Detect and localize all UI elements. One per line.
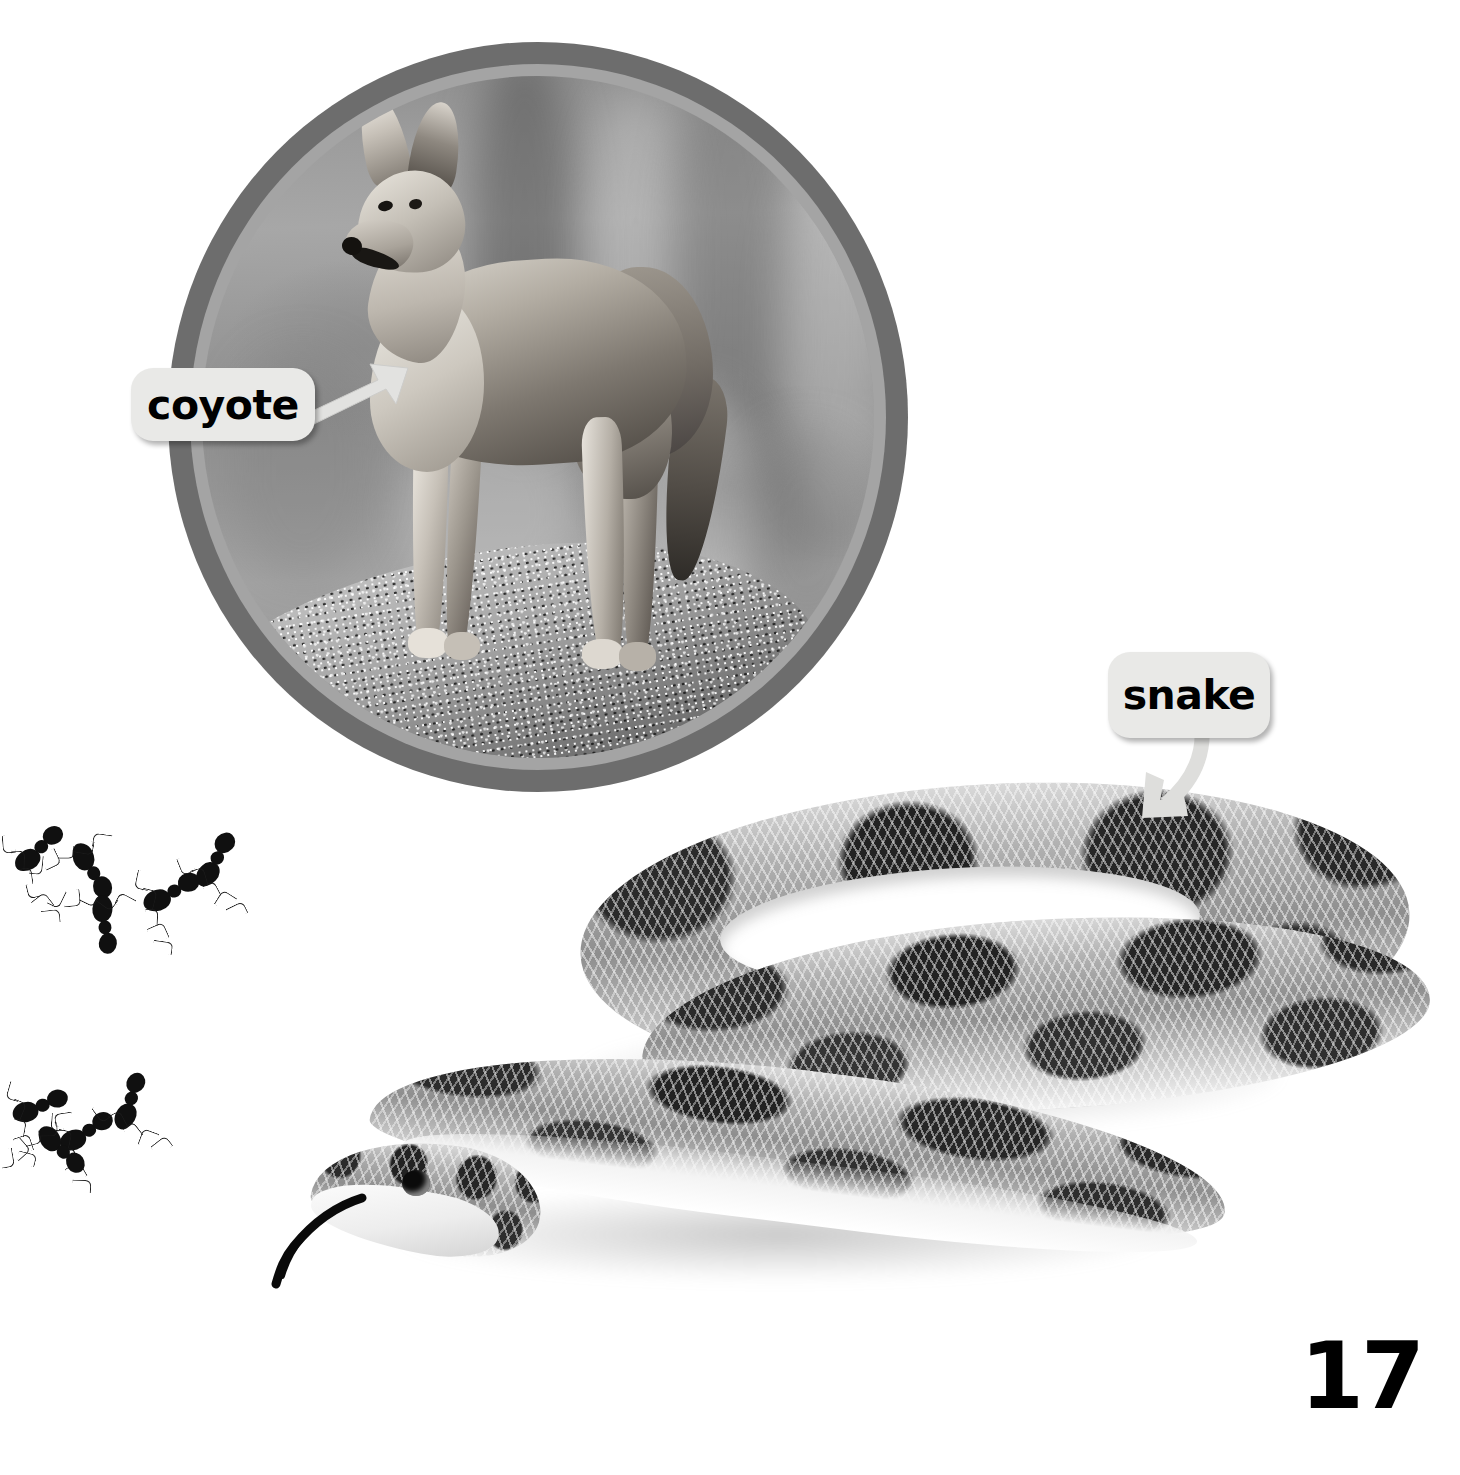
ant-antenna (41, 909, 61, 924)
book-page: coyote (0, 0, 1460, 1475)
snake-figure (250, 770, 1460, 1370)
coyote-paw (582, 639, 624, 669)
coyote-paw (444, 632, 480, 661)
ant-leg (114, 892, 136, 912)
ant-leg (38, 1122, 57, 1137)
page-number: 17 (1300, 1331, 1422, 1423)
ant-head (98, 932, 118, 955)
coyote-paw (619, 642, 657, 671)
ant-antenna (152, 940, 174, 956)
snake-tongue-icon (250, 1188, 380, 1298)
ant-leg (92, 833, 113, 850)
coyote-label-callout[interactable]: coyote (131, 368, 315, 441)
coyote-paw (408, 628, 448, 658)
ant-leg (11, 850, 26, 869)
coyote-label-text: coyote (147, 381, 299, 429)
snake-label-callout[interactable]: snake (1108, 652, 1270, 738)
ant (67, 890, 135, 974)
snake-eye (402, 1170, 430, 1196)
snake-label-text: snake (1123, 671, 1256, 719)
ant-leg (57, 846, 74, 859)
